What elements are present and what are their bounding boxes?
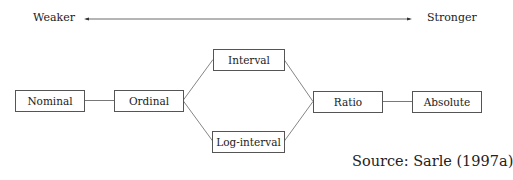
- source-citation: Source: Sarle (1997a): [352, 153, 513, 169]
- weaker-label: Weaker: [33, 11, 75, 24]
- node-absolute: Absolute: [412, 91, 482, 113]
- node-nominal: Nominal: [15, 90, 85, 112]
- stronger-label: Stronger: [427, 11, 477, 24]
- node-ordinal: Ordinal: [114, 90, 184, 112]
- node-log-interval: Log-interval: [212, 131, 285, 153]
- node-ratio: Ratio: [313, 91, 383, 113]
- node-interval: Interval: [213, 49, 285, 71]
